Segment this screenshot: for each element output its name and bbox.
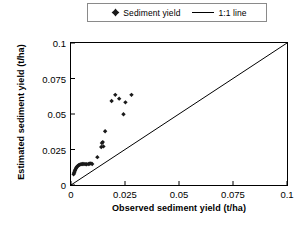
x-tick-label: 0.025 <box>113 189 137 200</box>
x-tick-label: 0.1 <box>280 189 293 200</box>
x-tick-label: 0 <box>68 189 73 200</box>
x-tick-label: 0.05 <box>170 189 189 200</box>
scatter-chart-figure: Sediment yield 1:1 line 00.0250.050.0750… <box>0 0 302 239</box>
y-axis-title: Estimated sediment yield (t/ha) <box>16 32 26 192</box>
x-axis-title: Observed sediment yield (t/ha) <box>70 203 288 213</box>
x-tick-label: 0.075 <box>221 189 245 200</box>
